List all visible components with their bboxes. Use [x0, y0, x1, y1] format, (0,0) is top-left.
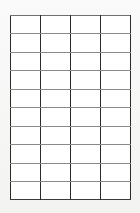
table-cell[interactable]	[100, 163, 130, 181]
table-row	[10, 145, 131, 163]
table-cell[interactable]	[70, 71, 100, 89]
table-cell[interactable]	[70, 89, 100, 107]
table-cell[interactable]	[70, 163, 100, 181]
table-cell[interactable]	[70, 34, 100, 52]
table-cell[interactable]	[40, 181, 70, 199]
page-root	[0, 0, 140, 213]
table-row	[10, 52, 131, 70]
table-row	[10, 181, 131, 199]
table-row	[10, 16, 131, 34]
table-cell[interactable]	[100, 181, 130, 199]
table-cell[interactable]	[100, 34, 130, 52]
table-cell[interactable]	[10, 181, 40, 199]
table-cell[interactable]	[70, 108, 100, 126]
table-row	[10, 126, 131, 144]
table-cell[interactable]	[40, 163, 70, 181]
table-body	[10, 16, 131, 200]
table-cell[interactable]	[100, 71, 130, 89]
blank-grid-table[interactable]	[10, 15, 132, 200]
table-cell[interactable]	[100, 126, 130, 144]
table-row	[10, 71, 131, 89]
table-cell[interactable]	[10, 145, 40, 163]
table-row	[10, 34, 131, 52]
table-cell[interactable]	[10, 126, 40, 144]
table-cell[interactable]	[10, 16, 40, 34]
table-cell[interactable]	[70, 145, 100, 163]
table-row	[10, 163, 131, 181]
table-cell[interactable]	[40, 126, 70, 144]
table-cell[interactable]	[100, 108, 130, 126]
table-cell[interactable]	[100, 16, 130, 34]
table-cell[interactable]	[10, 71, 40, 89]
table-cell[interactable]	[70, 52, 100, 70]
table-cell[interactable]	[40, 108, 70, 126]
table-cell[interactable]	[10, 163, 40, 181]
table-cell[interactable]	[40, 89, 70, 107]
table-cell[interactable]	[40, 34, 70, 52]
table-cell[interactable]	[100, 145, 130, 163]
table-row	[10, 108, 131, 126]
table-cell[interactable]	[10, 52, 40, 70]
table-cell[interactable]	[10, 89, 40, 107]
table-cell[interactable]	[100, 89, 130, 107]
table-cell[interactable]	[70, 181, 100, 199]
table-cell[interactable]	[10, 34, 40, 52]
table-cell[interactable]	[40, 71, 70, 89]
table-row	[10, 89, 131, 107]
table-cell[interactable]	[70, 126, 100, 144]
table-cell[interactable]	[40, 16, 70, 34]
table-cell[interactable]	[70, 16, 100, 34]
table-cell[interactable]	[100, 52, 130, 70]
table-cell[interactable]	[10, 108, 40, 126]
table-cell[interactable]	[40, 145, 70, 163]
table-cell[interactable]	[40, 52, 70, 70]
